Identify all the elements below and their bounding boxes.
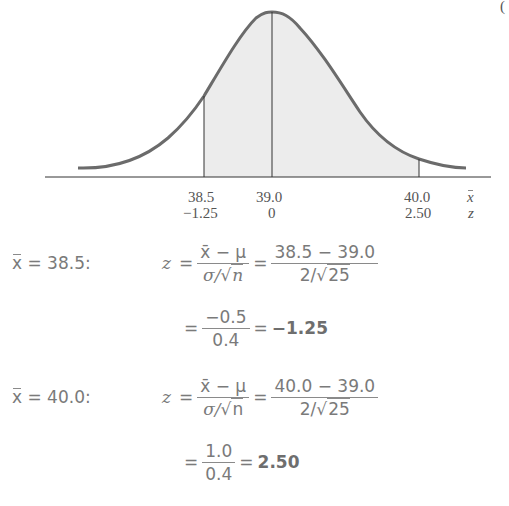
eq1-step-num: −0.5 bbox=[202, 307, 249, 329]
eq2-formula-den: σ/√n bbox=[200, 398, 246, 419]
eq1-lhs: x = 38.5: bbox=[12, 253, 162, 273]
eq2-lhs: x = 40.0: bbox=[12, 387, 162, 407]
eq2-eq-3: = bbox=[184, 452, 198, 472]
eq2-eq-1: = bbox=[179, 387, 193, 407]
tick-x-38-5: 38.5 bbox=[188, 189, 214, 205]
eq2-sub-den: 2/√25 bbox=[297, 398, 353, 419]
corner-mark: ( bbox=[500, 0, 505, 14]
shaded-area bbox=[204, 12, 419, 177]
eq1-line2: = −0.5 0.4 = −1.25 bbox=[184, 303, 328, 353]
eq2-eq-4: = bbox=[239, 452, 253, 472]
eq1-formula-num: x̄ − μ bbox=[197, 242, 249, 264]
eq2-formula-fraction: x̄ − μ σ/√n bbox=[197, 376, 249, 419]
eq1-step-fraction: −0.5 0.4 bbox=[202, 307, 249, 350]
tick-z-neg-1-25: −1.25 bbox=[183, 205, 218, 221]
eq2-sub-fraction: 40.0 − 39.0 2/√25 bbox=[271, 376, 378, 419]
eq1-sub-num: 38.5 − 39.0 bbox=[271, 242, 378, 264]
tick-z-0: 0 bbox=[268, 205, 276, 221]
eq2-line2: = 1.0 0.4 = 2.50 bbox=[184, 437, 300, 487]
eq1-eq-4: = bbox=[254, 318, 268, 338]
tick-z-2-50: 2.50 bbox=[405, 205, 431, 221]
tick-x-40-0: 40.0 bbox=[404, 189, 430, 205]
eq1-step-den: 0.4 bbox=[209, 329, 242, 350]
normal-curve-svg bbox=[0, 0, 509, 230]
eq2-formula-num: x̄ − μ bbox=[197, 376, 249, 398]
eq2-step-fraction: 1.0 0.4 bbox=[202, 441, 235, 484]
eq1-line1: x = 38.5: z = x̄ − μ σ/√n = 38.5 − 39.0 … bbox=[12, 238, 382, 288]
axis-label-xbar: x bbox=[467, 189, 474, 205]
eq1-formula-fraction: x̄ − μ σ/√n bbox=[197, 242, 249, 285]
normal-curve-figure: ( 38.5 −1.25 39.0 0 40.0 2.50 x z bbox=[0, 0, 509, 230]
eq1-z: z bbox=[162, 253, 171, 273]
eq2-step-den: 0.4 bbox=[202, 463, 235, 484]
eq1-formula-den: σ/√n bbox=[200, 264, 246, 285]
eq1-result: −1.25 bbox=[272, 318, 328, 338]
eq2-result: 2.50 bbox=[258, 452, 300, 472]
eq1-sub-fraction: 38.5 − 39.0 2/√25 bbox=[271, 242, 378, 285]
eq1-sub-den: 2/√25 bbox=[297, 264, 353, 285]
eq1-eq-1: = bbox=[179, 253, 193, 273]
eq1-eq-2: = bbox=[253, 253, 267, 273]
eq2-z: z bbox=[162, 387, 171, 407]
tick-x-39-0: 39.0 bbox=[256, 189, 282, 205]
eq2-sub-num: 40.0 − 39.0 bbox=[271, 376, 378, 398]
eq1-eq-3: = bbox=[184, 318, 198, 338]
eq2-step-num: 1.0 bbox=[202, 441, 235, 463]
eq2-eq-2: = bbox=[253, 387, 267, 407]
eq2-line1: x = 40.0: z = x̄ − μ σ/√n = 40.0 − 39.0 … bbox=[12, 372, 382, 422]
axis-label-z: z bbox=[468, 205, 474, 221]
